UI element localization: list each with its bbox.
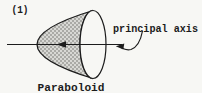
paraboloid-label: Paraboloid — [38, 82, 105, 94]
paraboloid-figure: (1) principal axis Paraboloid — [0, 0, 202, 93]
figure-index-label: (1) — [12, 5, 29, 16]
figure-canvas: (1) principal axis Paraboloid — [0, 0, 202, 93]
principal-axis-label: principal axis — [113, 24, 198, 35]
